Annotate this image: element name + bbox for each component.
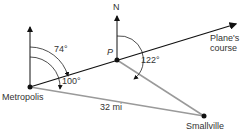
course-label-line2: course xyxy=(210,44,237,53)
angle-arc-122 xyxy=(117,36,144,79)
diagram-canvas xyxy=(0,0,243,134)
angle-arc-100 xyxy=(30,57,60,89)
plane-course-line xyxy=(30,24,236,87)
course-label-line1: Plane's xyxy=(210,34,239,43)
angle-122-label: 122° xyxy=(141,56,160,65)
smallville-label: Smallville xyxy=(186,122,224,131)
angle-100-label: 100° xyxy=(62,77,81,86)
metropolis-label: Metropolis xyxy=(2,93,44,102)
angle-74-label: 74° xyxy=(54,45,68,54)
point-p-label: P xyxy=(107,48,113,57)
smallville-point xyxy=(202,114,207,119)
p-smallville-line xyxy=(117,60,204,116)
metropolis-point xyxy=(28,85,33,90)
p-point xyxy=(115,58,120,63)
distance-label: 32 mi xyxy=(100,103,122,112)
north-label: N xyxy=(113,3,120,12)
